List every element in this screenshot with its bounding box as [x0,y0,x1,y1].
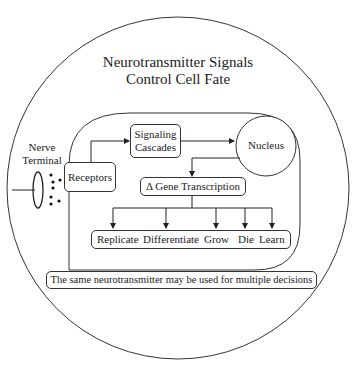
signaling-cascades-box: Signaling Cascades [130,124,181,158]
nerve-terminal-label: Nerve Terminal [12,141,72,166]
neurotransmitter-dots [49,173,61,205]
outcome-replicate: Replicate [97,233,139,246]
nerve-label-line-2: Terminal [12,154,72,167]
outcome-grow: Grow [204,233,229,246]
diagram-title: Neurotransmitter Signals Control Cell Fa… [88,54,268,89]
nerve-label-line-1: Nerve [12,141,72,154]
note-text: The same neurotransmitter may be used fo… [51,274,313,286]
gene-transcription-label: Δ Gene Transcription [146,180,240,193]
nucleus-label: Nucleus [236,139,296,152]
outcomes-box: Replicate Differentiate Grow Die Learn [91,230,291,249]
signaling-label-line-1: Signaling [134,128,176,141]
outcome-die: Die [238,233,254,246]
title-line-1: Neurotransmitter Signals [88,54,268,71]
receptors-label: Receptors [68,171,112,184]
signaling-label-line-2: Cascades [135,141,176,154]
outcome-differentiate: Differentiate [143,233,199,246]
outcome-learn: Learn [259,233,285,246]
title-line-2: Control Cell Fate [88,71,268,88]
note-box: The same neurotransmitter may be used fo… [46,271,317,289]
gene-transcription-box: Δ Gene Transcription [140,177,246,196]
receptors-box: Receptors [64,162,116,192]
